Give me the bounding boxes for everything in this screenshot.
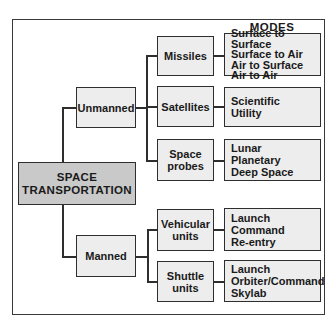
root-label-line2: TRANSPORTATION — [22, 184, 132, 197]
mode-item: Utility — [231, 107, 280, 119]
connector-to-shuttle — [147, 281, 157, 283]
node-vehicular-units: Vehicular units — [157, 209, 214, 251]
node-unmanned-label: Unmanned — [78, 102, 135, 114]
connector-root-to-manned — [62, 205, 64, 257]
node-manned: Manned — [76, 235, 136, 277]
mode-item: Planetary — [231, 154, 293, 166]
node-shuttle-label-line1: Shuttle — [167, 270, 204, 282]
connector-vehicular-modes — [214, 229, 224, 231]
connector-to-missiles — [146, 55, 157, 57]
root-node-space-transportation: SPACE TRANSPORTATION — [18, 162, 136, 205]
mode-item: Orbiter/Command — [231, 275, 325, 287]
node-missiles: Missiles — [157, 36, 214, 76]
node-space-probes-label-line1: Space — [167, 148, 204, 160]
connector-missiles-modes — [214, 55, 224, 57]
modes-missiles: Surface to Surface Surface to Air Air to… — [224, 33, 321, 76]
modes-space-probes: Lunar Planetary Deep Space — [224, 139, 321, 181]
mode-item: Lunar — [231, 142, 293, 154]
root-label-line1: SPACE — [22, 171, 132, 184]
mode-item: Re-entry — [231, 236, 285, 248]
modes-satellites: Scientific Utility — [224, 87, 321, 127]
node-space-probes: Space probes — [157, 139, 214, 181]
mode-item: Launch — [231, 263, 325, 275]
mode-item: Deep Space — [231, 166, 293, 178]
node-vehicular-label-line2: units — [161, 230, 210, 242]
node-unmanned: Unmanned — [76, 87, 136, 128]
mode-item: Surface to Surface — [231, 28, 320, 49]
node-manned-label: Manned — [85, 250, 127, 262]
connector-shuttle-modes — [214, 281, 224, 283]
mode-item: Air to Air — [231, 70, 320, 81]
connector-to-satellites — [146, 106, 157, 108]
node-shuttle-units: Shuttle units — [157, 261, 214, 302]
mode-item: Launch — [231, 212, 285, 224]
node-missiles-label: Missiles — [164, 50, 207, 62]
bus-unmanned — [146, 55, 148, 161]
node-shuttle-label-line2: units — [167, 282, 204, 294]
node-vehicular-label-line1: Vehicular — [161, 218, 210, 230]
connector-root-to-manned-h — [62, 256, 76, 258]
modes-vehicular-units: Launch Command Re-entry — [224, 208, 321, 251]
node-satellites: Satellites — [157, 86, 214, 127]
connector-root-to-unmanned — [62, 107, 64, 162]
node-satellites-label: Satellites — [161, 101, 209, 113]
connector-to-space-probes — [146, 160, 157, 162]
mode-item: Command — [231, 224, 285, 236]
connector-to-vehicular — [147, 229, 157, 231]
node-space-probes-label-line2: probes — [167, 160, 204, 172]
connector-root-to-unmanned-h — [62, 107, 76, 109]
connector-space-probes-modes — [214, 160, 224, 162]
connector-satellites-modes — [214, 106, 224, 108]
mode-item: Scientific — [231, 95, 280, 107]
modes-shuttle-units: Launch Orbiter/Command Skylab — [224, 260, 321, 302]
mode-item: Skylab — [231, 287, 325, 299]
bus-manned — [147, 229, 149, 282]
